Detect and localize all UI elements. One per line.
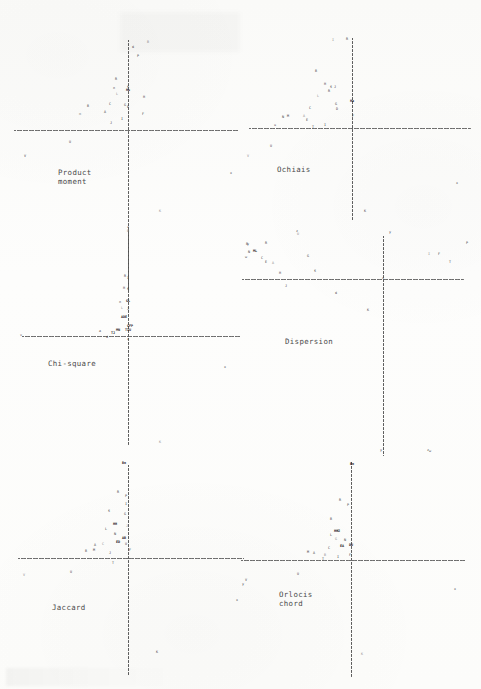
data-point: B — [87, 105, 89, 108]
data-point: n — [113, 87, 115, 90]
data-point: I — [332, 39, 334, 42]
data-point: x — [236, 599, 238, 602]
data-point: N — [344, 539, 346, 542]
panel-label-orlocis-chord: Orlocis chord — [279, 590, 313, 609]
data-point: y — [380, 449, 382, 452]
panel-label-jaccard: Jaccard — [52, 603, 86, 612]
data-point: GL — [126, 300, 130, 303]
panel-label-ochiais: Ochiais — [277, 165, 311, 174]
data-point: R — [265, 242, 267, 245]
data-point: K — [361, 653, 363, 656]
data-point: H — [324, 83, 326, 86]
data-point: T — [449, 261, 451, 264]
panel-label-product-moment: Product moment — [58, 168, 92, 187]
data-point: U — [69, 141, 71, 144]
data-point: V — [24, 155, 26, 158]
data-point: x — [454, 588, 456, 591]
data-point: G — [124, 513, 126, 516]
data-point: I — [121, 118, 123, 121]
data-point: S — [330, 86, 332, 89]
data-point: E — [127, 106, 129, 109]
data-point: U — [297, 573, 299, 576]
data-point: I — [125, 503, 127, 506]
data-point: Hu — [126, 89, 130, 92]
data-point: M — [307, 551, 309, 554]
data-point: H — [123, 287, 125, 290]
data-point: D — [336, 108, 338, 111]
data-point: R — [339, 499, 341, 502]
data-point: C — [261, 257, 263, 260]
data-point: B — [330, 518, 332, 521]
data-point: P — [125, 495, 127, 498]
data-point: J — [334, 86, 336, 89]
data-point: G — [124, 104, 126, 107]
data-point: F — [142, 113, 144, 116]
data-point: J — [127, 308, 129, 311]
data-point: I — [428, 253, 430, 256]
data-point: C — [109, 103, 111, 106]
data-point: M — [287, 115, 289, 118]
data-point: TJ — [111, 332, 115, 335]
scanned-page: Product moment BdPRnSHuLHCBGEAmFIJUVxKz … — [0, 0, 481, 689]
data-point: Ha — [350, 100, 354, 103]
data-point: A — [104, 111, 106, 114]
data-point: R — [124, 275, 126, 278]
data-point: S — [337, 530, 339, 533]
data-point: MN — [116, 329, 120, 332]
horizontal-axis-jaccard — [18, 558, 244, 559]
data-point: L — [116, 93, 118, 96]
data-point: HH — [113, 523, 117, 526]
data-point: G — [335, 538, 337, 541]
data-point: ADE — [121, 316, 127, 319]
horizontal-axis-product-moment — [14, 130, 238, 131]
data-point: R — [328, 90, 330, 93]
data-point: H — [143, 96, 145, 99]
data-point: V — [245, 579, 247, 582]
data-point: ED — [116, 541, 120, 544]
data-point: G — [307, 255, 309, 258]
data-point: E — [265, 261, 267, 264]
data-point: d — [335, 292, 337, 295]
data-point: B — [246, 243, 248, 246]
data-point: A — [313, 552, 315, 555]
data-point: x — [382, 277, 384, 280]
data-point: V — [247, 155, 249, 158]
data-point: V — [23, 574, 25, 577]
data-point: F — [438, 253, 440, 256]
data-point: x — [230, 172, 232, 175]
data-point: a — [99, 330, 101, 333]
data-point: A — [94, 544, 96, 547]
data-point: H — [279, 272, 281, 275]
data-point: L — [105, 528, 107, 531]
data-point: K — [159, 441, 161, 444]
data-point: I — [324, 124, 326, 127]
data-point: TIU — [125, 329, 131, 332]
data-point: Bo — [350, 463, 354, 466]
data-point: AB — [122, 537, 126, 540]
data-point: x — [456, 182, 458, 185]
data-point: P — [137, 55, 139, 58]
data-point: N — [282, 116, 284, 119]
data-point: L — [330, 534, 332, 537]
data-point: B — [324, 554, 326, 557]
data-point: y — [242, 583, 244, 586]
data-point: d — [106, 336, 108, 339]
data-point: T — [112, 562, 114, 565]
data-point: J — [110, 122, 112, 125]
data-point: B — [147, 41, 149, 44]
data-point: u — [274, 124, 276, 127]
data-point: U — [125, 543, 127, 546]
data-point: P — [347, 504, 349, 507]
data-point: L — [317, 95, 319, 98]
data-point: w — [429, 450, 431, 453]
data-point: N — [248, 251, 250, 254]
data-point: S — [127, 288, 129, 291]
vertical-axis-orlocis-chord — [351, 462, 352, 677]
data-point: v — [20, 334, 22, 337]
data-point: y — [389, 231, 391, 234]
data-point: S — [108, 510, 110, 513]
data-point: B — [127, 230, 129, 233]
data-point: ML — [253, 250, 257, 253]
data-point: n — [119, 301, 121, 304]
data-point: m — [79, 113, 81, 116]
